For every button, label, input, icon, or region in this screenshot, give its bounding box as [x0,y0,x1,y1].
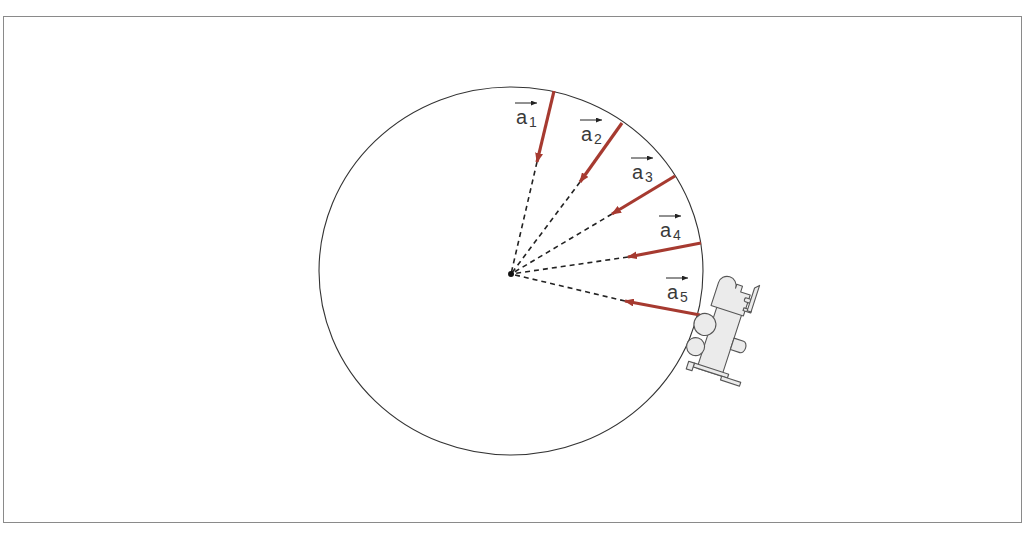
vector-a4 [628,243,701,257]
vector-a1 [537,91,554,162]
radius-lines [511,162,628,301]
vector-subscript: 1 [529,114,537,130]
label-a5: a5 [666,278,688,305]
vector-a3 [612,176,675,214]
label-a3: a3 [631,158,653,185]
circular-motion-diagram: a1a2a3a4a5 [0,0,1029,536]
vector-symbol: a [660,219,672,241]
vector-labels: a1a2a3a4a5 [515,103,688,305]
radius-line-a5 [511,274,625,301]
radius-line-a4 [511,257,628,274]
vector-subscript: 3 [645,169,653,185]
vector-symbol: a [632,161,644,183]
vector-symbol: a [581,123,593,145]
label-a1: a1 [515,103,537,130]
vector-symbol: a [667,281,679,303]
vector-subscript: 5 [680,289,688,305]
label-a4: a4 [659,216,681,243]
vector-symbol: a [516,106,528,128]
radius-line-a3 [511,214,612,274]
label-a2: a2 [580,120,602,147]
vector-a5 [625,301,700,315]
vector-subscript: 2 [594,131,602,147]
center-point [508,271,514,277]
vector-subscript: 4 [673,227,681,243]
